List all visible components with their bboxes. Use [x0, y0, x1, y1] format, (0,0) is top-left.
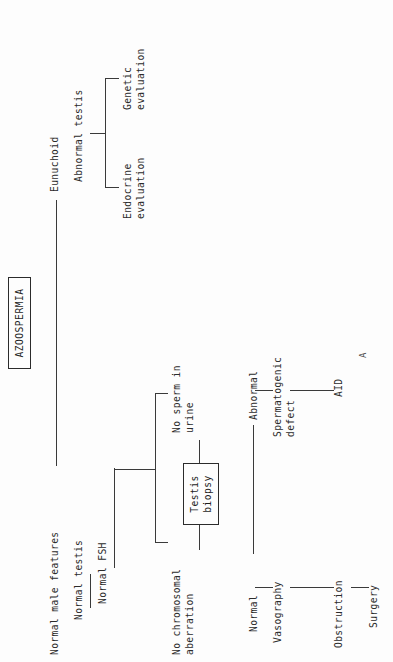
node-abnormal: Abnormal	[247, 371, 260, 420]
edge-genetic-arm	[105, 78, 119, 79]
edge-normal-testis-to-fsh	[90, 574, 91, 608]
root-title-box: AZOOSPERMIA	[8, 277, 31, 369]
node-genetic-evaluation: Genetic evaluation	[121, 48, 147, 110]
edge-split-stub	[114, 469, 155, 470]
node-aid: AID	[332, 378, 345, 397]
edge-biopsy-bottom-lead	[199, 524, 200, 550]
testis-biopsy-box: Testis biopsy	[183, 463, 219, 525]
node-surgery: Surgery	[367, 585, 380, 628]
edge-endocrine-arm	[105, 187, 119, 188]
node-no-sperm-in-urine: No sperm in urine	[170, 365, 196, 433]
edge-normal-rule	[253, 482, 254, 554]
edge-no-chrom-arm	[155, 542, 168, 543]
figure-page-label: A	[358, 353, 368, 358]
edge-vasography-to-obstruction	[290, 587, 334, 588]
node-normal: Normal	[247, 595, 260, 632]
edge-abnormal-testis-stub	[90, 133, 106, 134]
figure-canvas: AZOOSPERMIA Eunuchoid Abnormal testis En…	[0, 0, 393, 662]
node-spermatogenic-defect: Spermatogenic defect	[271, 357, 297, 437]
edge-root-trunk	[56, 200, 57, 466]
edge-no-sperm-arm	[155, 393, 168, 394]
node-vasography: Vasography	[271, 581, 284, 643]
node-normal-testis: Normal testis	[72, 540, 85, 620]
node-endocrine-evaluation: Endocrine evaluation	[121, 157, 147, 219]
node-normal-fsh: Normal FSH	[96, 542, 109, 604]
node-no-chromosomal-aberration: No chromosomal aberration	[170, 569, 196, 655]
edge-sperm-chrom-split	[155, 393, 156, 543]
edge-sperm-defect-to-aid	[290, 390, 334, 391]
node-eunuchoid: Eunuchoid	[48, 136, 61, 192]
node-normal-male-features: Normal male features	[48, 531, 61, 655]
edge-normal-fsh-rule	[114, 468, 115, 568]
edge-endocrine-genetic-split	[105, 78, 106, 188]
node-abnormal-testis: Abnormal testis	[72, 89, 85, 182]
node-obstruction: Obstruction	[332, 580, 345, 648]
